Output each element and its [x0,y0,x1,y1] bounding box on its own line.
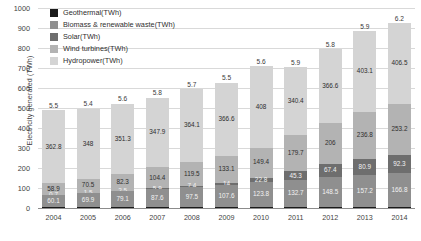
x-axis-tick-label: 2005 [77,208,100,232]
bar-top-value-label: 5.8 [326,41,335,48]
bar-segment[interactable]: 366.6 [319,49,342,122]
bar-segment-value: 107.6 [218,193,234,199]
bar-segment-value: 97.5 [186,194,198,200]
bar-segment[interactable]: 364.1 [180,89,203,162]
stacked-bar-chart: Electricity generated (TWh) 100090080070… [0,0,421,241]
legend-item[interactable]: Wind turbines(TWh) [50,44,200,55]
bar-segment-value: 45.3 [289,173,301,179]
x-axis-tick-label: 2004 [42,208,65,232]
legend-item[interactable]: Solar(TWh) [50,32,200,43]
bar-segment[interactable]: 123.8 [250,182,273,207]
bar-top-value-label: 5.5 [49,102,58,109]
legend-swatch-icon [50,33,58,41]
bar-segment[interactable]: 347.9 [146,98,169,168]
bar-top-value-label: 6.2 [395,15,404,22]
bar-segment[interactable]: 179.7 [284,135,307,171]
bar-column[interactable]: 408149.422.8123.85.6 [250,8,273,208]
bar-segment-value: 82.3 [116,179,128,185]
bar-segment-value: 148.5 [322,189,338,195]
bar-segment[interactable]: 166.8 [388,173,411,206]
bar-segment[interactable]: 403.1 [353,31,376,112]
bar-segment-value: 364.1 [184,122,200,128]
legend-item[interactable]: Geothermal(TWh) [50,8,200,19]
bar-top-value-label: 5.5 [222,74,231,81]
bar-segment[interactable]: 67.4 [319,164,342,177]
bar-segment-value: 166.8 [391,187,407,193]
bar-segment-value: 79.1 [116,196,128,202]
bar-segment[interactable]: 107.6 [215,185,238,207]
bar-segment[interactable]: 157.2 [353,175,376,206]
y-axis-tick-label: 100 [0,184,30,193]
bar-segment-value: 236.8 [357,132,373,138]
bar-segment-value: 149.4 [253,159,269,165]
y-axis-tick-label: 800 [0,44,30,53]
bar-segment[interactable]: 362.8 [42,110,65,183]
bar-segment-value: 119.5 [184,171,200,177]
bar-column[interactable]: 366.6133.114107.65.5 [215,8,238,208]
bar-segment[interactable]: 133.1 [215,156,238,183]
x-axis-tick-label: 2006 [111,208,134,232]
y-axis-tick-label: 1000 [0,4,30,13]
bar-top-value-label: 5.6 [118,95,127,102]
bar-segment[interactable]: 60.1 [42,195,65,207]
y-axis-tick-label: 900 [0,24,30,33]
bar-segment-value: 406.5 [391,60,407,66]
bar-column[interactable]: 406.5253.292.3166.86.2 [388,8,411,208]
x-axis-tick-label: 2014 [388,208,411,232]
bar-segment[interactable]: 45.3 [284,171,307,180]
x-axis-tick-label: 2011 [284,208,307,232]
x-axis-tick-label: 2013 [353,208,376,232]
bar-segment[interactable]: 206 [319,123,342,164]
bar-top-value-label: 5.9 [291,59,300,66]
legend-swatch-icon [50,9,58,17]
legend-item-label: Solar(TWh) [63,32,100,42]
bar-segment[interactable]: 408 [250,66,273,148]
bar-segment[interactable]: 79.1 [111,191,134,207]
legend-item-label: Hydropower(TWh) [63,56,123,66]
bar-segment-value: 366.6 [322,83,338,89]
bar-segment[interactable]: 340.4 [284,67,307,135]
bar-segment[interactable]: 149.4 [250,148,273,178]
bar-segment[interactable]: 406.5 [388,23,411,104]
bar-segment[interactable]: 92.3 [388,155,411,173]
x-axis-tick-label: 2009 [215,208,238,232]
bar-segment-value: 104.4 [149,175,165,181]
bar-segment-value: 340.4 [288,98,304,104]
bar-segment[interactable]: 366.6 [215,83,238,156]
legend-item-label: Wind turbines(TWh) [63,44,128,54]
x-axis-tick-label: 2008 [180,208,203,232]
bar-segment[interactable]: 69.9 [77,193,100,207]
bar-segment[interactable]: 148.5 [319,177,342,207]
bar-segment-value: 253.2 [391,126,407,132]
bar-column[interactable]: 403.1236.880.9157.25.9 [353,8,376,208]
y-axis-tick-label: 700 [0,64,30,73]
x-axis-tick-label: 2012 [319,208,342,232]
bar-segment[interactable]: 253.2 [388,104,411,155]
bar-column[interactable]: 366.620667.4148.55.8 [319,8,342,208]
bar-segment[interactable]: 351.3 [111,104,134,174]
bar-segment[interactable]: 236.8 [353,112,376,159]
legend-item[interactable]: Hydropower(TWh) [50,56,200,67]
bar-segment-value: 206 [325,140,336,146]
bar-top-value-label: 5.4 [84,100,93,107]
bar-segment-value: 179.7 [288,150,304,156]
bar-segment-value: 348 [83,141,94,147]
x-axis: 2004200520062007200820092010201120122013… [38,208,415,232]
bar-segment-value: 351.3 [115,136,131,142]
bar-segment[interactable]: 97.5 [180,187,203,207]
bar-segment-value: 408 [256,104,267,110]
bar-top-value-label: 5.6 [256,58,265,65]
x-axis-tick-label: 2007 [146,208,169,232]
bar-segment-value: 92.3 [393,161,405,167]
legend-item[interactable]: Biomass & renewable waste(TWh) [50,20,200,31]
y-axis-tick-label: 200 [0,164,30,173]
bar-segment[interactable]: 87.6 [146,189,169,207]
bar-segment[interactable]: 348 [77,109,100,179]
bar-segment-value: 69.9 [82,197,94,203]
bar-segment[interactable]: 132.7 [284,180,307,207]
bar-segment-value: 133.1 [218,166,234,172]
bar-segment[interactable]: 80.9 [353,159,376,175]
bar-top-value-label: 5.9 [360,23,369,30]
bar-segment-value: 80.9 [359,164,371,170]
bar-column[interactable]: 340.4179.745.3132.75.9 [284,8,307,208]
